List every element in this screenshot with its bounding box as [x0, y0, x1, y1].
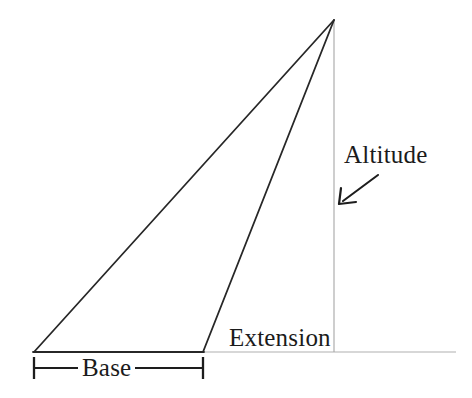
altitude-arrow-head-icon [339, 188, 356, 204]
altitude-arrow-shaft [343, 175, 378, 201]
extension-label: Extension [229, 325, 331, 350]
base-label: Base [78, 355, 135, 380]
geometry-diagram: Altitude Extension Base [0, 0, 472, 398]
triangle-left-side [34, 20, 334, 352]
triangle-right-side [203, 20, 334, 352]
altitude-label: Altitude [344, 142, 428, 167]
